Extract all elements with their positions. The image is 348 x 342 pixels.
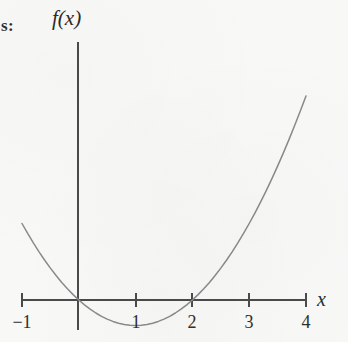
figure-text-layer: s: f(x) x −1 1 2 3 4: [0, 0, 348, 342]
figure-container: s: f(x) x −1 1 2 3 4: [0, 0, 348, 342]
x-tick-label-neg1: −1: [12, 313, 31, 331]
x-tick-label-3: 3: [245, 313, 254, 331]
x-tick-label-4: 4: [302, 313, 311, 331]
y-axis-label: f(x): [52, 8, 81, 29]
x-tick-label-1: 1: [132, 313, 141, 331]
x-tick-label-2: 2: [188, 313, 197, 331]
cropped-text-fragment: s:: [1, 17, 14, 34]
x-axis-label: x: [317, 289, 326, 309]
